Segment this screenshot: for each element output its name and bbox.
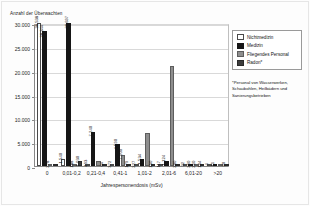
bar-group: 3724.5907.0001790,41-1 xyxy=(108,25,132,166)
bar-group: 4937.240640,21-0,4 xyxy=(84,25,108,166)
bar-fliegendes-personal xyxy=(170,66,175,166)
x-tick-label: 6,01-20 xyxy=(185,170,202,176)
legend-item-3: Radon* xyxy=(237,60,298,66)
bar-value-label: 1.534 xyxy=(138,153,142,163)
y-tick-label: 25.000 xyxy=(15,46,30,52)
bar-medizin: 1.534 xyxy=(140,159,145,166)
chart-page: Anzahl der Überwachten 05.00010.00015.00… xyxy=(0,0,310,206)
footnote-text: *Personal von Wasserwerken, Schaubohlen,… xyxy=(232,80,304,99)
bar-value-label: 144 xyxy=(198,161,202,168)
legend-swatch-icon xyxy=(237,34,244,40)
bar-value-label: 32 xyxy=(181,162,185,167)
bar-value-label: 7.240 xyxy=(89,126,93,136)
x-tick-label: 2,01-6 xyxy=(162,170,176,176)
y-tick-mark xyxy=(32,168,35,169)
legend-item-2: Fliegendes Personal xyxy=(237,51,298,57)
x-tick-label: 0,01-0,2 xyxy=(62,170,80,176)
bar-radon xyxy=(53,164,58,166)
bar-value-label: 372 xyxy=(108,161,112,168)
legend-item-0: Nichtmedizin xyxy=(237,34,298,40)
bar-value-label: 227 xyxy=(132,161,136,168)
bar-value-label: 1.030 xyxy=(76,156,80,166)
x-tick-label: 0,41-1 xyxy=(113,170,127,176)
legend-swatch-icon xyxy=(237,43,244,49)
bar-value-label: 4 xyxy=(205,163,209,165)
bar-value-label: 7.000 xyxy=(119,149,123,159)
x-tick-label: >20 xyxy=(214,170,222,176)
y-tick-label: 15.000 xyxy=(15,94,30,100)
bar-radon: 150 xyxy=(151,164,156,166)
bar-value-label: 1.540 xyxy=(59,153,63,163)
x-tick-label: 0 xyxy=(46,170,49,176)
bar-nichtmedizin: 1.540 xyxy=(61,159,66,166)
bar-group: 38.53828.3442780 xyxy=(35,25,59,166)
bar-medizin: 28.344 xyxy=(42,31,47,166)
bar-value-label: 200 xyxy=(173,161,177,168)
bar-nichtmedizin: 372 xyxy=(110,164,115,166)
bar-value-label: 188 xyxy=(70,161,74,168)
bar-value-label: 20 xyxy=(222,162,226,167)
bar-value-label: 11 xyxy=(211,162,215,166)
bar-medizin: 1.124 xyxy=(164,161,169,166)
bar-value-label: 64 xyxy=(100,162,104,167)
bar-group: 1171.1242002,01-6 xyxy=(157,25,181,166)
x-tick-label: 1,01-2 xyxy=(138,170,152,176)
x-axis-title: Jahrespersonendosis (mSv) xyxy=(34,182,229,188)
y-tick-label: 30.000 xyxy=(15,22,30,28)
legend-label: Fliegendes Personal xyxy=(247,52,289,57)
bar-value-label: 150 xyxy=(149,161,153,168)
bar-value-label: 28.344 xyxy=(40,25,44,38)
bar-value-label: 4.590 xyxy=(113,139,117,149)
bar-value-label: 179 xyxy=(125,161,129,168)
bar-group: 2271.5341501,01-2 xyxy=(133,25,157,166)
chart-legend: NichtmedizinMedizinFliegendes PersonalRa… xyxy=(232,30,302,70)
legend-label: Nichtmedizin xyxy=(247,35,273,40)
legend-swatch-icon xyxy=(237,60,244,66)
bar-radon: 20 xyxy=(224,164,229,166)
bar-nichtmedizin: 493 xyxy=(85,164,90,166)
bar-group: 1.54038.6971881.0300,01-0,2 xyxy=(59,25,83,166)
bar-fliegendes-personal: 278 xyxy=(48,164,53,166)
legend-item-1: Medizin xyxy=(237,43,298,49)
bar-value-label: 278 xyxy=(46,161,50,168)
y-tick-label: 0 xyxy=(27,165,30,171)
legend-swatch-icon xyxy=(237,51,244,57)
bar-group: 322902101446,01-20 xyxy=(181,25,205,166)
bar-value-label: 38.697 xyxy=(65,16,69,29)
bar-group: 41120>20 xyxy=(206,25,230,166)
bar-nichtmedizin: 38.538 xyxy=(37,23,42,166)
x-tick-label: 0,21-0,4 xyxy=(87,170,105,176)
y-tick-label: 5.000 xyxy=(17,141,30,147)
bar-medizin: 7.240 xyxy=(91,132,96,167)
bar-medizin: 11 xyxy=(213,164,218,166)
bar-radon: 1.030 xyxy=(78,161,83,166)
y-tick-label: 20.000 xyxy=(15,70,30,76)
bar-value-label: 1.124 xyxy=(162,155,166,165)
bar-value-label: 210 xyxy=(192,161,196,168)
bar-medizin: 38.697 xyxy=(66,23,71,166)
plot-area: 05.00010.00015.00020.00025.00030.00038.5… xyxy=(34,24,229,167)
y-tick-label: 10.000 xyxy=(15,117,30,123)
legend-label: Radon* xyxy=(247,60,262,65)
legend-label: Medizin xyxy=(247,43,263,48)
bar-value-label: 493 xyxy=(83,160,87,167)
